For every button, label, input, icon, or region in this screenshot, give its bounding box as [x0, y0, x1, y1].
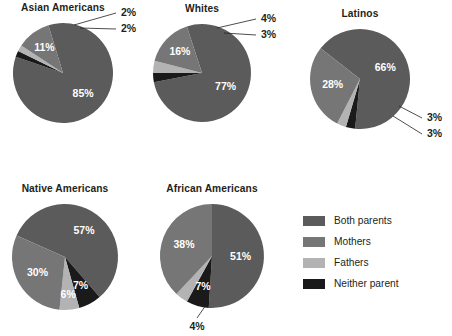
- legend-swatch-mothers: [303, 237, 325, 247]
- legend-label-fathers: Fathers: [334, 257, 369, 268]
- legend-label-mothers: Mothers: [334, 236, 371, 247]
- legend-label-neither-parent: Neither parent: [334, 278, 399, 289]
- legend-label-both-parents: Both parents: [334, 215, 392, 226]
- slice-value-label: 30%: [27, 266, 49, 278]
- pie-title: Asian Americans: [21, 2, 105, 13]
- pie-title: African Americans: [166, 183, 258, 194]
- legend-swatch-fathers: [303, 258, 325, 268]
- slice-value-label: 2%: [121, 22, 137, 34]
- slice-value-label: 85%: [73, 87, 95, 99]
- slice-value-label: 3%: [427, 127, 443, 139]
- slice-value-label: 38%: [173, 238, 195, 250]
- pie-title: Whites: [185, 3, 219, 14]
- pie-chart-figure: Asian Americans85%11%2%2%Whites77%16%4%3…: [0, 0, 452, 336]
- slice-value-label: 4%: [189, 320, 205, 332]
- slice-value-label: 7%: [195, 280, 211, 292]
- slice-value-label: 2%: [121, 6, 137, 18]
- slice-value-label: 3%: [427, 111, 443, 123]
- slice-value-label: 11%: [34, 41, 55, 53]
- slice-value-label: 7%: [73, 279, 89, 291]
- slice-value-label: 16%: [169, 45, 191, 57]
- pie-title: Native Americans: [22, 183, 109, 194]
- slice-value-label: 51%: [230, 250, 252, 262]
- slice-value-label: 77%: [215, 80, 237, 92]
- slice-value-label: 66%: [375, 61, 397, 73]
- legend-swatch-neither-parent: [303, 279, 325, 289]
- pie-title: Latinos: [342, 8, 379, 19]
- slice-value-label: 4%: [261, 12, 277, 24]
- legend-swatch-both-parents: [303, 216, 325, 226]
- slice-value-label: 57%: [73, 224, 95, 236]
- slice-value-label: 3%: [261, 28, 277, 40]
- slice-value-label: 28%: [322, 78, 344, 90]
